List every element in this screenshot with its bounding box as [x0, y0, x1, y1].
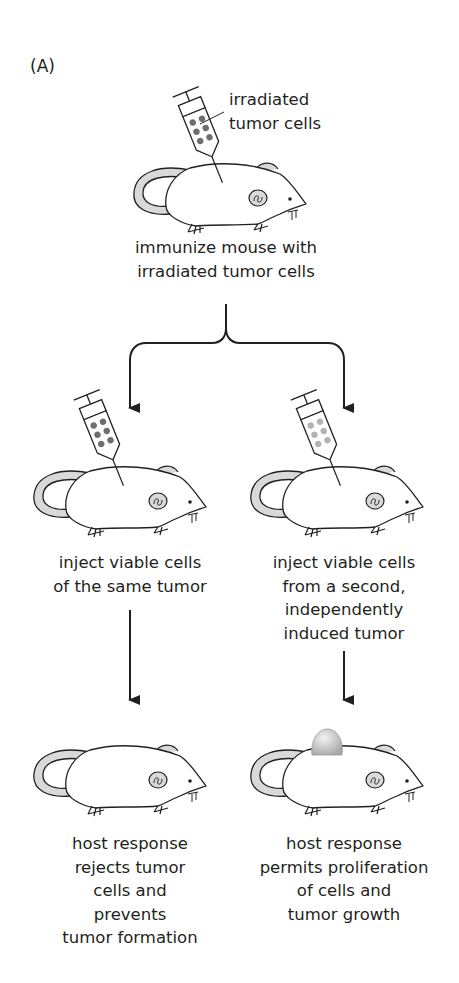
mouse-tumor-growth — [251, 745, 423, 816]
syringe-label: irradiated tumor cells — [229, 88, 321, 135]
branch-brace — [130, 304, 226, 408]
mouse-tumor-rejected — [34, 745, 206, 816]
caption-outcome-rejected: host response rejects tumor cells and pr… — [20, 832, 240, 950]
caption-outcome-growth: host response permits proliferation of c… — [218, 832, 459, 926]
caption-inject-second: inject viable cells from a second, indep… — [234, 551, 454, 645]
caption-immunize: immunize mouse with irradiated tumor cel… — [90, 236, 362, 283]
branch-brace-right — [226, 328, 344, 408]
immunized-mouse — [134, 163, 306, 234]
caption-inject-same: inject viable cells of the same tumor — [20, 551, 240, 598]
tumor-mass — [312, 729, 343, 755]
